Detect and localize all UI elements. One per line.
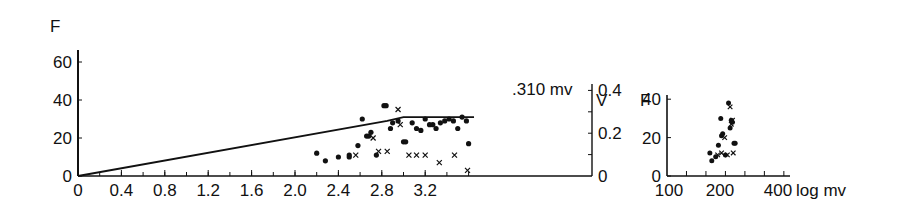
inset-dot-marker [707, 150, 712, 155]
dot-marker [384, 103, 389, 108]
cross-marker [452, 153, 457, 158]
y-tick-label: 0 [63, 167, 72, 186]
cross-marker [437, 160, 442, 165]
dot-marker [455, 126, 460, 131]
inset-plot-data [707, 101, 737, 164]
inset-dot-marker [728, 126, 733, 131]
cross-marker [385, 149, 390, 154]
x-tick-label: 0 [73, 181, 82, 200]
y-tick-label: 60 [53, 53, 72, 72]
dot-marker [459, 115, 464, 120]
x-tick-label: 3.2 [413, 181, 437, 200]
dot-marker [388, 126, 393, 131]
v-tick-label: 0 [598, 167, 607, 186]
dot-marker [418, 128, 423, 133]
inset-cross-marker [731, 151, 736, 156]
x-tick-label: 1.6 [240, 181, 264, 200]
dot-marker [390, 120, 395, 125]
v-tick-label: 0.2 [598, 124, 622, 143]
cross-marker [406, 153, 411, 158]
dot-marker [433, 126, 438, 131]
y-tick-label: 40 [53, 91, 72, 110]
cross-marker [465, 168, 470, 173]
dot-marker [314, 151, 319, 156]
inset-dot-marker [716, 143, 721, 148]
x-tick-label: 2.4 [327, 181, 351, 200]
inset-dot-marker [709, 158, 714, 163]
cross-marker [353, 153, 358, 158]
inset-y-axis-label: F [640, 91, 650, 110]
cross-marker [398, 122, 403, 127]
cross-marker [371, 136, 376, 141]
dot-marker [360, 116, 365, 121]
inset-dot-marker [733, 141, 738, 146]
x-tick-label: 0.8 [153, 181, 177, 200]
dot-marker [347, 154, 352, 159]
dot-marker [423, 116, 428, 121]
dot-marker [336, 154, 341, 159]
dot-marker [368, 130, 373, 135]
dot-marker [466, 141, 471, 146]
inset-dot-marker [718, 116, 723, 121]
inset-x-tick-label: 200 [706, 181, 734, 200]
dot-marker [323, 158, 328, 163]
dot-marker [464, 118, 469, 123]
main-y-axis-label: F [50, 17, 60, 36]
inset-x-tick-label: 100 [655, 181, 683, 200]
y-tick-label: 20 [53, 129, 72, 148]
x-tick-label: 1.2 [196, 181, 220, 200]
dot-marker [355, 143, 360, 148]
cross-marker [376, 149, 381, 154]
chart-canvas: 020406000.40.81.21.62.02.42.83.200.20.4 … [0, 0, 915, 219]
dot-marker [403, 139, 408, 144]
cross-marker [396, 107, 401, 112]
inset-cross-marker [728, 105, 733, 110]
x-tick-label: 0.4 [110, 181, 134, 200]
inset-x-tick-label: 400 [764, 181, 792, 200]
dot-marker [410, 120, 415, 125]
inset-y-tick-label: 20 [642, 129, 661, 148]
cross-marker [414, 153, 419, 158]
cross-marker [423, 153, 428, 158]
right-y-axis-label: V [596, 91, 608, 110]
dot-marker [451, 118, 456, 123]
main-plot-axes: 020406000.40.81.21.62.02.42.83.200.20.4 [53, 50, 622, 200]
voltage-curve [78, 117, 474, 176]
x-tick-label: 2.0 [283, 181, 307, 200]
inset-x-axis-label: log mv [796, 181, 847, 200]
x-tick-label: 2.8 [370, 181, 394, 200]
voltage-annotation: .310 mv [512, 80, 573, 99]
main-plot-data [78, 103, 474, 176]
